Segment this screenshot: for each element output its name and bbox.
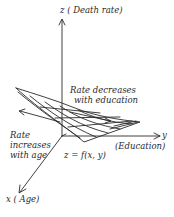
- y-axis-label: y: [162, 131, 167, 140]
- z-axis-label: z ( Death rate): [60, 6, 123, 15]
- age-annotation-line2: increases: [10, 141, 51, 150]
- diagram-drawing: [0, 0, 174, 217]
- age-trend-arrow: [20, 111, 60, 122]
- education-annotation-line1: Rate decreases: [70, 86, 136, 95]
- surface-diagram: z ( Death rate) Rate decreases with educ…: [0, 0, 174, 217]
- x-axis-label: x ( Age): [6, 195, 39, 204]
- y-axis-description: (Education): [115, 142, 165, 151]
- age-annotation-line3: with age: [10, 151, 47, 160]
- function-label: z = f(x, y): [64, 151, 106, 160]
- age-annotation-line1: Rate: [10, 131, 30, 140]
- education-annotation-line2: with education: [74, 96, 138, 105]
